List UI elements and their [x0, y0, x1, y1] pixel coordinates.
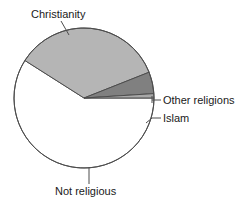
pie-label-christianity: Christianity [31, 8, 85, 20]
pie-chart-figure: Christianity Other religions Islam Not r… [0, 0, 242, 205]
pie-label-islam: Islam [163, 112, 189, 124]
pie-label-other-religions: Other religions [163, 94, 235, 106]
pie-label-not-religious: Not religious [55, 185, 116, 197]
